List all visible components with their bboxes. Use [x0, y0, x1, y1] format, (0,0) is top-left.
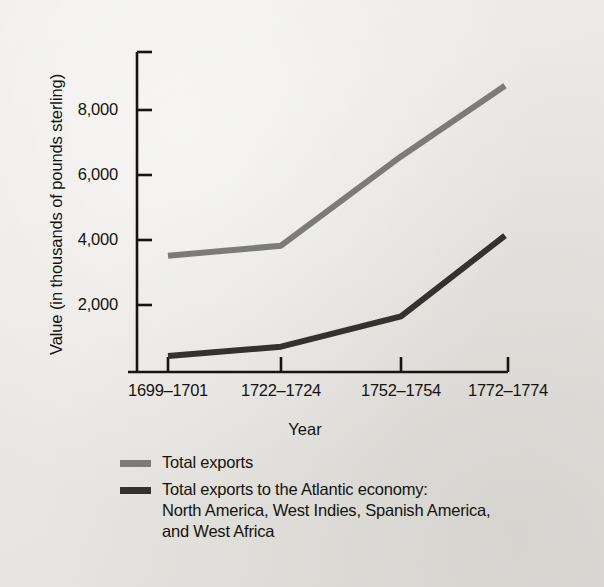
legend-swatch-atlantic-economy — [120, 487, 151, 494]
legend-label-total-exports: Total exports — [162, 452, 253, 473]
y-axis-ticks — [137, 110, 152, 305]
legend-label-line: and West Africa — [162, 521, 490, 542]
legend-label-line: North America, West Indies, Spanish Amer… — [162, 500, 490, 521]
series-line-total-exports — [168, 86, 505, 256]
chart-figure: Value (in thousands of pounds sterling) … — [0, 0, 604, 587]
legend-swatch-total-exports — [120, 460, 151, 467]
legend-item-atlantic-economy: Total exports to the Atlantic economy: N… — [120, 479, 590, 542]
x-axis-ticks — [168, 357, 401, 372]
axis-spines — [128, 52, 508, 372]
legend-item-total-exports: Total exports — [120, 452, 590, 473]
chart-legend: Total exports Total exports to the Atlan… — [120, 452, 590, 548]
legend-label-line: Total exports to the Atlantic economy: — [162, 479, 490, 500]
legend-label-line: Total exports — [162, 452, 253, 473]
legend-label-atlantic-economy: Total exports to the Atlantic economy: N… — [162, 479, 490, 542]
